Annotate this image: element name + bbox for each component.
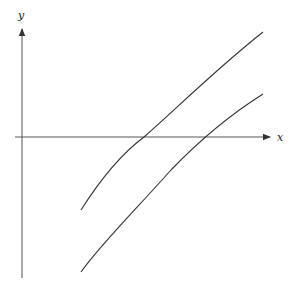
coordinate-diagram: x y: [0, 0, 299, 291]
y-axis-label: y: [17, 9, 25, 22]
lower-curve: [81, 94, 263, 272]
x-axis-label: x: [277, 131, 284, 144]
upper-curve: [81, 32, 263, 210]
